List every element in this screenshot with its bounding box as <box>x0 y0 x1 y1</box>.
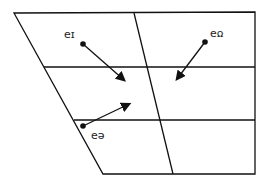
label-ue: ʊə <box>210 29 224 40</box>
vowel-quadrilateral <box>0 0 271 183</box>
arrow-ue <box>177 42 205 79</box>
vowel-chart: ɪə ʊə eə <box>0 0 271 183</box>
dot-ie <box>80 41 86 47</box>
dot-ue <box>202 39 208 45</box>
arrow-ea <box>83 104 129 126</box>
label-ea: eə <box>91 130 105 141</box>
label-ie: ɪə <box>64 30 75 41</box>
dot-ea <box>80 123 86 129</box>
center-divider <box>134 13 173 174</box>
arrow-ie <box>83 44 124 80</box>
